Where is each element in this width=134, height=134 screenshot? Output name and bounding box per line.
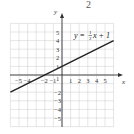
y-tick-label: 5 [56,29,59,36]
line-graph: 2 x y −5−4−2−11234554321−2−3−4−51 y = 1 … [0,0,134,134]
y-tick-label: 1 [56,75,59,82]
y-tick-label: 2 [56,54,59,61]
y-axis-arrow-icon [60,13,64,18]
equation-rhs: x + 1 [92,31,110,40]
y-tick-label: −5 [54,115,61,122]
equation-frac-num: 1 [89,30,92,35]
y-tick-label: 3 [56,46,59,53]
x-tick-label: 3 [86,77,89,84]
x-tick-label: 1 [69,77,72,84]
y-axis-label: y [53,8,58,16]
y-tick-label: −2 [54,89,61,96]
x-tick-label: 2 [78,77,81,84]
x-axis-label: x [121,78,126,86]
partial-label: 2 [86,0,91,10]
x-tick-label: 5 [104,77,107,84]
x-tick-label: 4 [95,77,99,84]
equation-frac-den: 2 [89,36,92,41]
y-tick-label: −4 [54,106,62,113]
x-tick-label: −2 [41,77,48,84]
y-tick-label: −3 [54,97,61,104]
x-axis-arrow-icon [118,73,123,77]
equation-lhs: y = [73,31,85,40]
x-tick-label: −5 [15,77,22,84]
equation-label: y = 1 2 x + 1 [73,30,110,41]
